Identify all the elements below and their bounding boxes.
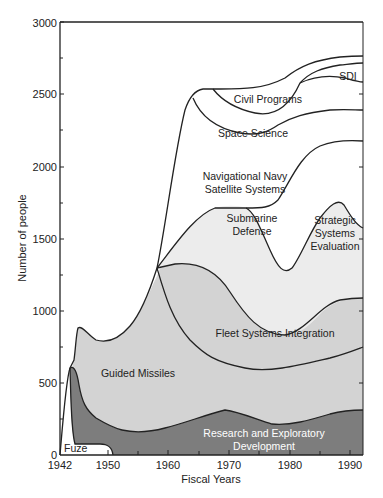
y-tick-label: 500 (39, 377, 57, 389)
x-tick-label: 1970 (217, 459, 241, 471)
x-tick-label: 1942 (48, 459, 72, 471)
label-fuze: Fuze (64, 442, 88, 454)
label-sdi: SDI (339, 70, 357, 82)
label-submarine-line1: Submarine (227, 212, 278, 224)
y-tick-label: 3000 (33, 17, 57, 29)
y-tick-label: 2500 (33, 88, 57, 100)
stacked-area-chart: 3000 2500 2000 1500 1000 500 0 1942 1950… (0, 0, 383, 498)
label-civil-programs: Civil Programs (234, 93, 302, 105)
label-submarine-line2: Defense (232, 225, 271, 237)
label-sse-line1: Strategic (314, 214, 355, 226)
y-tick-label: 1000 (33, 305, 57, 317)
label-sse-line2: Systems (315, 227, 355, 239)
label-research-line2: Development (233, 440, 295, 452)
y-axis-label: Number of people (16, 194, 28, 281)
label-guided-missiles: Guided Missiles (101, 367, 175, 379)
y-tick-label: 2000 (33, 161, 57, 173)
x-tick-label: 1990 (338, 459, 362, 471)
x-tick-label: 1950 (96, 459, 120, 471)
y-tick-label: 1500 (33, 233, 57, 245)
label-research-line1: Research and Exploratory (203, 427, 325, 439)
x-axis-label: Fiscal Years (181, 473, 241, 485)
label-navsat-line2: Satellite Systems (205, 183, 286, 195)
x-tick-label: 1980 (278, 459, 302, 471)
label-space-science: Space Science (218, 127, 288, 139)
label-fleet-systems: Fleet Systems Integration (215, 327, 334, 339)
x-tick-label: 1960 (156, 459, 180, 471)
label-sse-line3: Evaluation (310, 240, 359, 252)
label-navsat-line1: Navigational Navy (203, 170, 288, 182)
